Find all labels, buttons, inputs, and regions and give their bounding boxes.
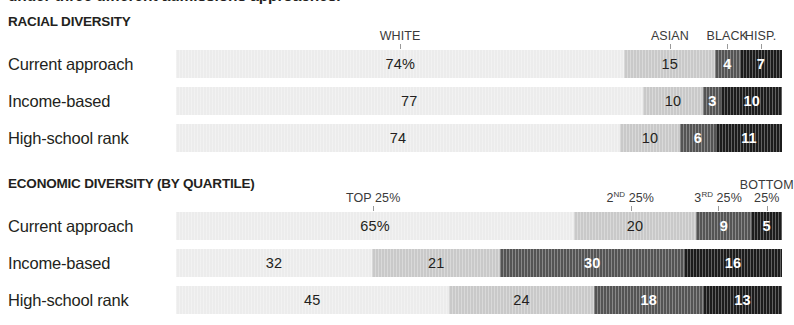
bar-segment-value-economic-2-2: 18 [640, 292, 657, 308]
bar-row: Income-based7710310 [0, 87, 791, 115]
bar-segment-economic-1-1: 21 [372, 249, 501, 277]
bar-segment-racial-1-3: 10 [721, 87, 782, 115]
bar-row-label-economic-1: Income-based [8, 249, 110, 277]
bar-segment-value-economic-1-2: 30 [584, 255, 601, 271]
bar-segment-racial-2-3: 11 [716, 124, 782, 152]
column-header-ordinal-economic-2: RD [701, 190, 713, 199]
bar-row: Income-based32213016 [0, 249, 791, 277]
bar-segment-racial-2-2: 6 [680, 124, 716, 152]
bar-row-label-racial-0: Current approach [8, 50, 133, 78]
truncated-headline: under three different admissions approac… [0, 0, 791, 7]
column-header-tick-economic-2 [718, 206, 719, 211]
bar-segment-value-economic-0-1: 20 [627, 218, 644, 234]
bar-segment-value-economic-0-0: 65% [360, 218, 390, 234]
bar-segment-value-racial-1-1: 10 [665, 93, 682, 109]
bar-segment-value-racial-2-2: 6 [694, 130, 702, 146]
bar-segment-racial-1-1: 10 [643, 87, 704, 115]
bar-segment-racial-2-0: 74 [176, 124, 620, 152]
column-header-ordinal-economic-1: ND [614, 190, 626, 199]
column-header-text-economic-0: TOP 25% [346, 191, 400, 205]
column-header-text-racial-2: BLACK [706, 29, 748, 43]
bar-segment-value-economic-1-3: 16 [725, 255, 742, 271]
bar-segment-economic-0-1: 20 [574, 212, 696, 240]
bar-segment-value-economic-0-2: 9 [720, 218, 728, 234]
bar-segment-racial-1-2: 3 [703, 87, 721, 115]
column-header-label-economic-3: BOTTOM25% [740, 179, 794, 205]
bar-segment-value-economic-2-1: 24 [513, 292, 530, 308]
bar-segment-racial-1-0: 77 [176, 87, 643, 115]
bar-row: High-school rank7410611 [0, 124, 791, 152]
stacked-bar-economic-0: 65%2095 [176, 212, 782, 240]
bar-segment-value-racial-0-3: 7 [757, 56, 765, 72]
bar-row-label-economic-0: Current approach [8, 212, 133, 240]
column-header-label-economic-0: TOP 25% [346, 192, 400, 205]
stacked-bar-economic-2: 45241813 [176, 286, 782, 314]
column-header-tick-racial-1 [670, 44, 671, 49]
column-header-tick-economic-0 [373, 206, 374, 211]
stacked-bar-racial-0: 74%1547 [176, 50, 782, 78]
bar-segment-value-racial-1-3: 10 [743, 93, 760, 109]
column-header-tick-economic-3 [767, 206, 768, 211]
bar-segment-value-racial-1-2: 3 [708, 93, 716, 109]
bar-segment-racial-0-0: 74% [176, 50, 624, 78]
bar-segment-value-economic-1-0: 32 [266, 255, 283, 271]
bar-segment-value-racial-0-0: 74% [385, 56, 415, 72]
column-header-text-racial-0: WHITE [380, 29, 421, 43]
bar-segment-value-racial-2-1: 10 [642, 130, 659, 146]
column-header-text-economic-1: 25% [625, 191, 654, 205]
bar-segment-economic-1-0: 32 [176, 249, 372, 277]
bar-segment-economic-1-3: 16 [684, 249, 782, 277]
stacked-bar-racial-2: 7410611 [176, 124, 782, 152]
bar-segment-economic-2-2: 18 [594, 286, 703, 314]
bar-segment-value-racial-1-0: 77 [401, 93, 418, 109]
bar-segment-value-racial-0-1: 15 [662, 56, 679, 72]
column-header-text-economic-2: 25% [713, 191, 742, 205]
bar-segment-racial-0-2: 4 [715, 50, 739, 78]
bar-segment-value-racial-0-2: 4 [723, 56, 731, 72]
bar-segment-economic-0-3: 5 [751, 212, 782, 240]
bar-segment-value-racial-2-3: 11 [741, 130, 757, 146]
column-header-tick-racial-2 [727, 44, 728, 49]
column-header-label-economic-1: 2ND 25% [607, 188, 655, 205]
column-header-label-racial-0: WHITE [380, 30, 421, 43]
bar-segment-value-economic-2-0: 45 [304, 292, 321, 308]
column-header-label-racial-3: HISP. [745, 30, 777, 43]
column-header-tick-racial-3 [761, 44, 762, 49]
column-headers-economic: TOP 25%2ND 25%3RD 25%BOTTOM25% [0, 176, 791, 216]
column-headers-racial: WHITEASIANBLACKHISP. [0, 14, 791, 54]
column-header-text-racial-3: HISP. [745, 29, 777, 43]
column-header-ordinal-prefix-economic-1: 2 [607, 191, 614, 205]
bar-row-label-racial-1: Income-based [8, 87, 110, 115]
bar-row: Current approach65%2095 [0, 212, 791, 240]
bar-segment-value-economic-2-3: 13 [734, 292, 751, 308]
bar-segment-racial-0-3: 7 [740, 50, 782, 78]
bar-segment-racial-0-1: 15 [624, 50, 715, 78]
column-header-label-racial-2: BLACK [706, 30, 748, 43]
bar-segment-racial-2-1: 10 [620, 124, 680, 152]
stacked-bar-economic-1: 32213016 [176, 249, 782, 277]
bar-segment-economic-0-2: 9 [696, 212, 751, 240]
bar-segment-economic-1-2: 30 [500, 249, 684, 277]
bar-segment-economic-2-1: 24 [449, 286, 594, 314]
column-header-text-racial-1: ASIAN [651, 29, 689, 43]
bar-row: Current approach74%1547 [0, 50, 791, 78]
column-header-text-economic-3: 25% [754, 191, 779, 205]
bar-segment-economic-2-0: 45 [176, 286, 449, 314]
column-header-tick-racial-0 [400, 44, 401, 49]
bar-segment-value-racial-2-0: 74 [390, 130, 407, 146]
column-header-label-economic-2: 3RD 25% [694, 188, 742, 205]
bar-row-label-economic-2: High-school rank [8, 286, 129, 314]
column-header-tick-economic-1 [631, 206, 632, 211]
column-header-label-racial-1: ASIAN [651, 30, 689, 43]
bar-segment-economic-2-3: 13 [703, 286, 782, 314]
bar-row-label-racial-2: High-school rank [8, 124, 129, 152]
headline-text: under three different admissions approac… [8, 0, 340, 5]
stacked-bar-racial-1: 7710310 [176, 87, 782, 115]
bar-segment-value-economic-1-1: 21 [428, 255, 445, 271]
bar-segment-value-economic-0-3: 5 [763, 218, 771, 234]
bar-row: High-school rank45241813 [0, 286, 791, 314]
bar-segment-economic-0-0: 65% [176, 212, 574, 240]
